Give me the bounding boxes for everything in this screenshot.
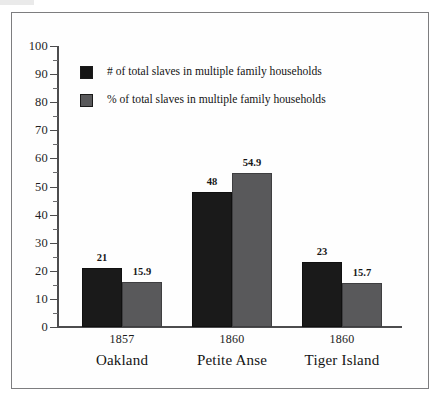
chart-figure-frame: 1009080706050403020100 # of total slaves… <box>11 12 429 389</box>
category-year-tiger-island: 1860 <box>272 332 412 346</box>
plot-area: 1009080706050403020100 # of total slaves… <box>12 13 430 390</box>
scan-artifact <box>0 0 34 5</box>
category-group-tiger-island: 1860Tiger Island <box>272 332 412 370</box>
category-labels-layer: 1857Oakland1860Petite Anse1860Tiger Isla… <box>12 13 430 390</box>
category-name-tiger-island: Tiger Island <box>272 350 412 370</box>
